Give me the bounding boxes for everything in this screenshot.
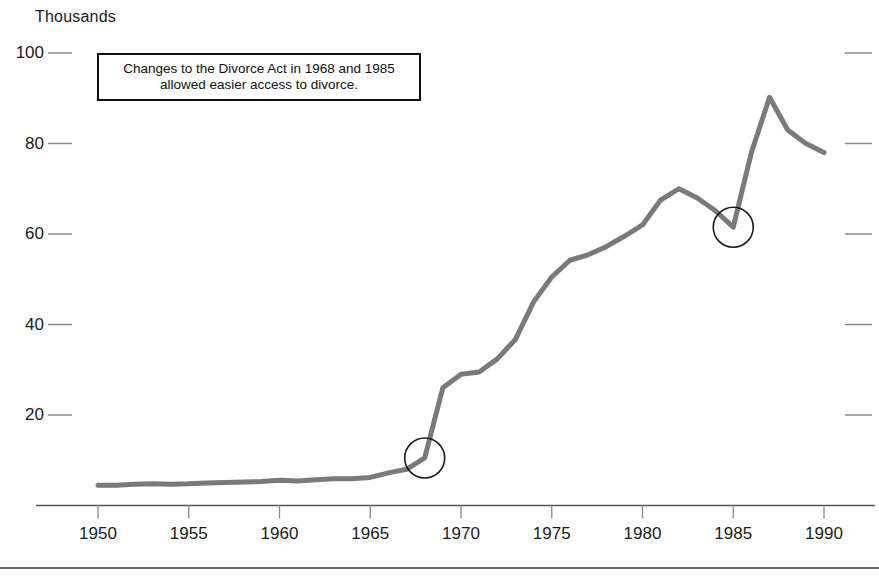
y-axis-tick-label: 80	[0, 134, 44, 154]
annotation-line-2: allowed easier access to divorce.	[160, 77, 358, 93]
x-axis-tick-label: 1955	[154, 524, 224, 544]
chart-page: Thousands Changes to the Divorce Act in …	[0, 0, 879, 576]
data-line-divorces	[98, 97, 824, 485]
x-axis-tick-label: 1950	[63, 524, 133, 544]
y-axis-tick-label: 40	[0, 315, 44, 335]
x-axis-tick-label: 1980	[608, 524, 678, 544]
annotation-line-1: Changes to the Divorce Act in 1968 and 1…	[123, 61, 395, 77]
x-axis-tick-label: 1965	[335, 524, 405, 544]
x-axis-tick-label: 1960	[245, 524, 315, 544]
y-axis-tick-label: 100	[0, 43, 44, 63]
x-axis-tick-label: 1990	[789, 524, 859, 544]
y-axis-tick-label: 20	[0, 405, 44, 425]
x-axis-tick-label: 1985	[698, 524, 768, 544]
divorce-act-annotation: Changes to the Divorce Act in 1968 and 1…	[97, 53, 421, 101]
x-axis-tick-label: 1975	[517, 524, 587, 544]
x-axis-tick-label: 1970	[426, 524, 496, 544]
y-axis-tick-label: 60	[0, 224, 44, 244]
